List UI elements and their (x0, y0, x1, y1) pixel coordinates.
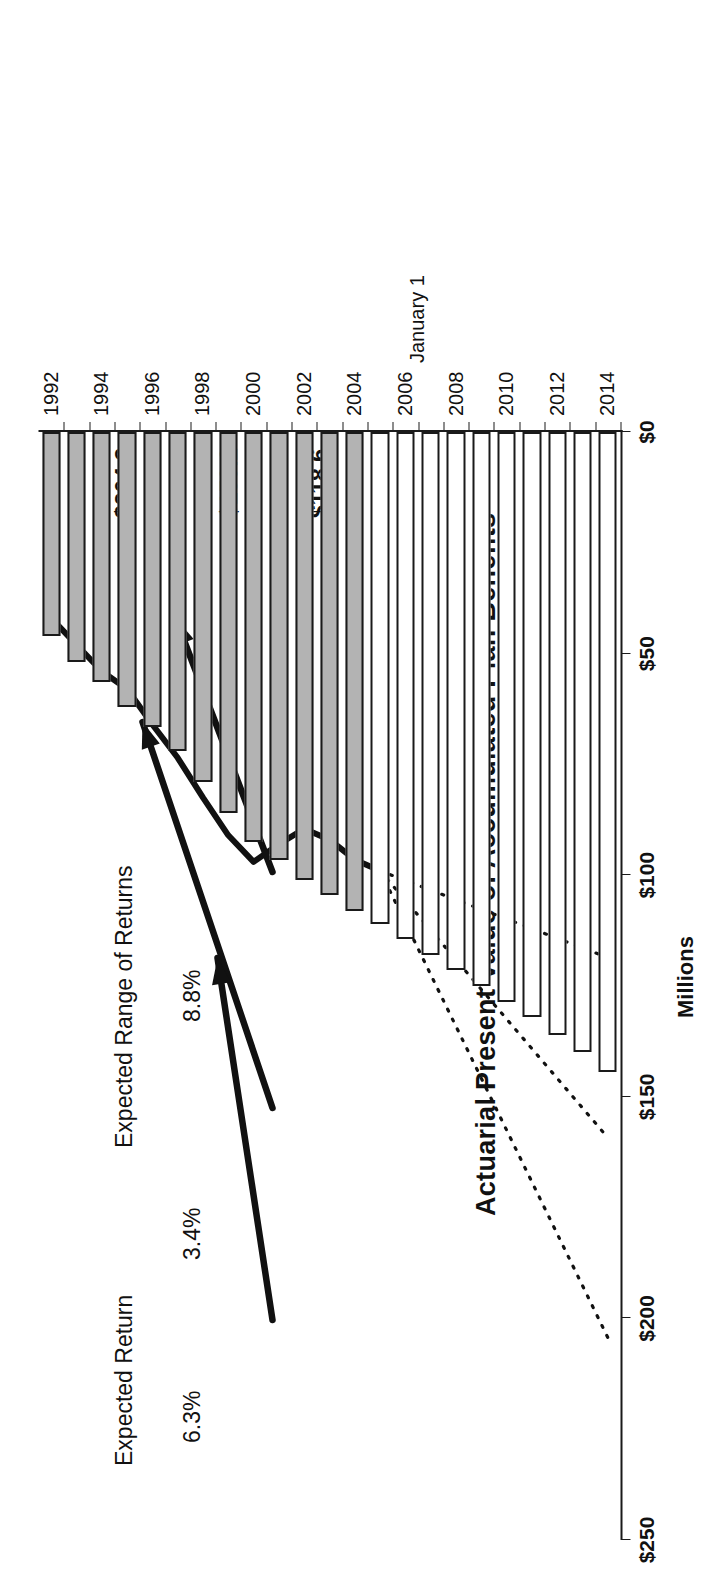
bar-2002 (295, 432, 313, 880)
category-axis-tick (443, 422, 444, 430)
category-axis-tick-label: 2004 (343, 372, 366, 417)
value-axis-tick (621, 431, 630, 432)
annotation-expected-rate: 6.3% (178, 1391, 205, 1443)
category-axis-tick-label: 2014 (596, 372, 619, 417)
category-axis-tick (291, 422, 292, 430)
bar-2001 (269, 432, 287, 860)
category-axis-tick (63, 422, 64, 430)
value-axis-tick-label: $50 (634, 636, 658, 671)
category-axis-tick-label: 2008 (444, 372, 467, 417)
value-axis-tick (621, 1096, 630, 1097)
value-axis-tick (621, 1539, 630, 1540)
category-axis-tick (342, 422, 343, 430)
category-axis-tick-label: 2006 (393, 372, 416, 417)
category-axis-tick (190, 422, 191, 430)
bar-1994 (92, 432, 110, 682)
annotation-expected-range-label: Expected Range of Returns (110, 865, 137, 1148)
annotation-rate-low: 3.4% (178, 1208, 205, 1260)
category-axis-tick (139, 422, 140, 430)
value-axis-title: Millions (672, 936, 698, 1018)
value-axis-tick (621, 874, 630, 875)
category-axis-tick (544, 422, 545, 430)
bar-2009 (472, 432, 490, 986)
bar-2008 (446, 432, 464, 970)
category-axis-tick-label: 1994 (90, 372, 113, 417)
bar-2005 (370, 432, 388, 924)
bar-1999 (219, 432, 237, 813)
category-axis-tick (215, 422, 216, 430)
category-axis-tick (367, 422, 368, 430)
bar-1992 (42, 432, 60, 636)
category-axis-tick (468, 422, 469, 430)
category-axis-tick (316, 422, 317, 430)
category-axis-tick (519, 422, 520, 430)
bar-2003 (320, 432, 338, 895)
bar-2011 (522, 432, 540, 1017)
category-axis-tick (569, 422, 570, 430)
value-axis-tick-label: $100 (634, 852, 658, 899)
value-axis-tick-label: $200 (634, 1295, 658, 1342)
bar-2012 (548, 432, 566, 1035)
category-axis-tick (240, 422, 241, 430)
bar-2014 (598, 432, 616, 1072)
category-axis-tick-label: 2010 (495, 372, 518, 417)
value-axis-tick (621, 1317, 630, 1318)
category-axis-tick-label: 1996 (140, 372, 163, 417)
value-axis-tick-label: $150 (634, 1073, 658, 1120)
category-axis-tick (114, 422, 115, 430)
category-axis-tick-label: 2012 (545, 372, 568, 417)
category-axis-tick-label: 2000 (242, 372, 265, 417)
category-axis-tick (89, 422, 90, 430)
value-axis-tick-label: $0 (634, 420, 658, 443)
annotation-rate-high: 8.8% (178, 970, 205, 1022)
bar-2000 (244, 432, 262, 842)
rotated-figure: Actuarial Present Value of Accumulated P… (0, 0, 711, 1578)
bar-2013 (573, 432, 591, 1052)
annotation-expected-return-label: Expected Return (110, 1295, 137, 1466)
figure-page: Actuarial Present Value of Accumulated P… (0, 0, 711, 1578)
category-axis-tick-label: 2002 (292, 372, 315, 417)
bar-2006 (396, 432, 414, 939)
chart-plot-area: Actuarial Present Value of Accumulated P… (0, 0, 711, 1578)
value-axis-tick (621, 653, 630, 654)
category-axis-tick (595, 422, 596, 430)
category-axis-tick (620, 422, 621, 430)
value-axis-tick-label: $250 (634, 1517, 658, 1564)
bar-1993 (67, 432, 85, 662)
bar-1996 (143, 432, 161, 727)
category-axis-tick-label: 1998 (191, 372, 214, 417)
category-axis-tick (165, 422, 166, 430)
bar-2007 (421, 432, 439, 955)
category-axis-tick-label: 1992 (39, 372, 62, 417)
bar-1995 (117, 432, 135, 707)
bar-1997 (168, 432, 186, 751)
category-axis-tick (392, 422, 393, 430)
category-axis-tick (493, 422, 494, 430)
bar-2010 (497, 432, 515, 1002)
bar-1998 (193, 432, 211, 782)
category-axis-title: January 1 (405, 275, 428, 363)
category-axis-tick (418, 422, 419, 430)
category-axis-tick (266, 422, 267, 430)
bar-2004 (345, 432, 363, 911)
